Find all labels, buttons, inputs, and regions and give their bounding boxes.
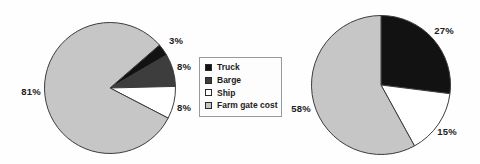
left-pie-label-truck: 3% — [169, 35, 183, 46]
legend: Truck Barge Ship Farm gate cost — [199, 57, 282, 117]
legend-label-barge: Barge — [217, 76, 241, 85]
legend-item-farm-gate-cost: Farm gate cost — [205, 101, 277, 110]
legend-label-ship: Ship — [217, 89, 235, 98]
right-pie-label-ship: 15% — [437, 126, 457, 137]
right-pie-label-farm-gate: 58% — [291, 103, 311, 114]
legend-item-barge: Barge — [205, 76, 277, 85]
legend-item-truck: Truck — [205, 63, 277, 72]
legend-label-farm-gate-cost: Farm gate cost — [217, 101, 277, 110]
right-pie-label-truck: 27% — [434, 25, 454, 36]
ship-swatch-icon — [205, 89, 212, 96]
left-pie-label-farm-gate: 81% — [21, 86, 41, 97]
right-pie-chart — [310, 14, 452, 156]
barge-swatch-icon — [205, 77, 212, 84]
figure-canvas: 3% 8% 8% 81% Truck Barge Ship Farm gate … — [0, 0, 480, 164]
farm-gate-cost-swatch-icon — [205, 102, 212, 109]
left-pie-label-barge: 8% — [177, 61, 191, 72]
legend-label-truck: Truck — [217, 63, 240, 72]
left-pie-chart — [43, 21, 177, 155]
legend-item-ship: Ship — [205, 89, 277, 98]
truck-swatch-icon — [205, 64, 212, 71]
left-pie-label-ship: 8% — [177, 102, 191, 113]
